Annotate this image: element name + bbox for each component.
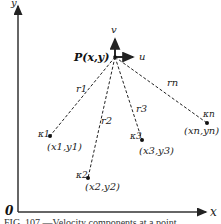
source-strength-n: κn xyxy=(202,109,215,119)
distance-label-rn: rn xyxy=(167,77,178,88)
x-axis-label: x xyxy=(210,205,217,219)
distance-line-r3 xyxy=(115,57,142,140)
distance-line-rn xyxy=(115,57,207,123)
source-coords-3: (x3,y3) xyxy=(139,145,174,156)
velocity-u-label: u xyxy=(139,51,145,62)
source-strength-2: κ2 xyxy=(75,170,88,180)
distance-label-r3: r3 xyxy=(136,103,147,114)
origin-label: 0 xyxy=(5,204,14,218)
source-coords-1: (x1,y1) xyxy=(47,141,82,152)
source-coords-n: (xn,yn) xyxy=(184,125,219,136)
vortex-diagram: y x 0 r1 r2 r3 rn v u P(x,y) κ1 (x1,y1) … xyxy=(0,0,221,224)
source-strength-3: κ3 xyxy=(129,131,142,141)
distance-label-r2: r2 xyxy=(101,115,112,126)
point-p-label: P(x,y) xyxy=(73,51,109,64)
y-axis-label: y xyxy=(10,0,17,8)
velocity-v-label: v xyxy=(111,24,117,35)
source-coords-2: (x2,y2) xyxy=(85,181,120,192)
distance-label-r1: r1 xyxy=(76,83,87,94)
point-p xyxy=(113,55,117,59)
source-strength-1: κ1 xyxy=(37,129,50,139)
figure-caption: FIG. 107.—Velocity components at a point xyxy=(4,217,177,224)
